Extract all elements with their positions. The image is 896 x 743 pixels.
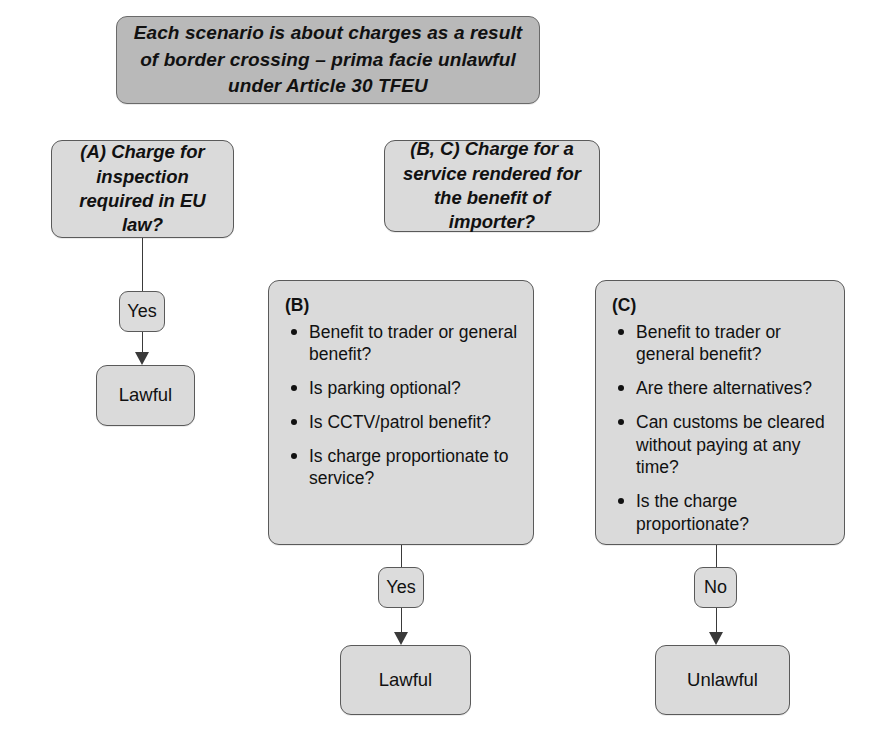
list-item: Is the charge proportionate? xyxy=(610,490,830,536)
criteria-box-c-list: Benefit to trader or general benefit? Ar… xyxy=(610,321,830,536)
connector-c-to-no xyxy=(716,545,718,567)
outcome-box-b-lawful-text: Lawful xyxy=(341,668,470,692)
edge-label-c-no-text: No xyxy=(704,577,727,598)
outcome-box-c-unlawful-text: Unlawful xyxy=(656,668,789,692)
decision-box-a-text: (A) Charge for inspection required in EU… xyxy=(52,140,233,238)
premise-header-text: Each scenario is about charges as a resu… xyxy=(117,20,539,101)
flowchart-canvas: Each scenario is about charges as a resu… xyxy=(0,0,896,743)
edge-label-c-no: No xyxy=(694,567,737,608)
list-item: Are there alternatives? xyxy=(610,377,830,400)
list-item: Benefit to trader or general benefit? xyxy=(610,321,830,367)
edge-label-a-yes-text: Yes xyxy=(127,301,156,322)
arrowhead-c-result-icon xyxy=(709,632,723,645)
edge-label-a-yes: Yes xyxy=(119,291,165,332)
outcome-box-c-unlawful: Unlawful xyxy=(655,645,790,715)
criteria-box-b-list: Benefit to trader or general benefit? Is… xyxy=(283,321,519,491)
list-item: Can customs be cleared without paying at… xyxy=(610,411,830,479)
decision-box-bc: (B, C) Charge for a service rendered for… xyxy=(384,140,600,232)
edge-label-b-yes: Yes xyxy=(378,567,424,608)
premise-header-box: Each scenario is about charges as a resu… xyxy=(116,16,540,104)
list-item: Is CCTV/patrol benefit? xyxy=(283,411,519,434)
arrowhead-a-result-icon xyxy=(135,352,149,365)
decision-box-bc-text: (B, C) Charge for a service rendered for… xyxy=(385,137,599,235)
arrowhead-b-result-icon xyxy=(394,632,408,645)
outcome-box-a-lawful: Lawful xyxy=(96,365,195,426)
outcome-box-b-lawful: Lawful xyxy=(340,645,471,715)
list-item: Benefit to trader or general benefit? xyxy=(283,321,519,367)
list-item: Is charge proportionate to service? xyxy=(283,445,519,491)
outcome-box-a-lawful-text: Lawful xyxy=(97,383,194,407)
connector-a-to-yes xyxy=(142,238,144,291)
criteria-box-c: (C) Benefit to trader or general benefit… xyxy=(595,280,845,545)
decision-box-a: (A) Charge for inspection required in EU… xyxy=(51,140,234,238)
criteria-box-b-label: (B) xyxy=(285,297,519,315)
connector-b-to-yes xyxy=(401,545,403,567)
connector-c-no-to-result xyxy=(716,608,718,635)
edge-label-b-yes-text: Yes xyxy=(386,577,415,598)
connector-b-yes-to-result xyxy=(401,608,403,635)
criteria-box-b: (B) Benefit to trader or general benefit… xyxy=(268,280,534,545)
criteria-box-c-label: (C) xyxy=(612,297,830,315)
list-item: Is parking optional? xyxy=(283,377,519,400)
